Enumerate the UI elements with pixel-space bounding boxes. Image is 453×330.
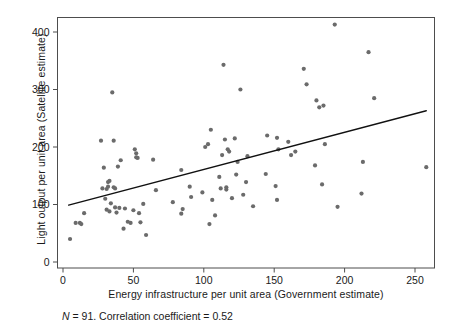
data-point (110, 90, 114, 94)
data-point (366, 50, 370, 54)
data-point (227, 150, 231, 154)
data-point (151, 158, 155, 162)
data-point (224, 187, 228, 191)
data-point (238, 87, 242, 91)
x-tick-label-150: 150 (265, 274, 283, 286)
data-point (234, 173, 238, 177)
data-point (233, 136, 237, 140)
data-point (109, 201, 113, 205)
data-point (223, 137, 227, 141)
x-axis-ticks: 050100150200250 (60, 268, 424, 286)
data-point (333, 22, 337, 26)
data-point (320, 182, 324, 186)
data-point (136, 156, 140, 160)
data-point (107, 209, 111, 213)
data-point (74, 221, 78, 225)
x-tick-label-250: 250 (406, 274, 424, 286)
data-point (265, 133, 269, 137)
scatter-plot-figure: 0100200300400 050100150200250 Light outp… (0, 0, 453, 330)
plot-frame (58, 18, 435, 269)
data-point (179, 212, 183, 216)
data-point (251, 204, 255, 208)
data-point (119, 158, 123, 162)
data-point (103, 197, 107, 201)
data-point (317, 105, 321, 109)
data-point (314, 98, 318, 102)
data-point (213, 213, 217, 217)
x-tick-label-200: 200 (336, 274, 354, 286)
data-point (100, 186, 104, 190)
x-tick-label-0: 0 (60, 274, 66, 286)
data-point (99, 139, 103, 143)
data-point (107, 179, 111, 183)
data-point (372, 96, 376, 100)
y-axis-label: Light output per unit area (Satellite es… (35, 14, 47, 264)
data-point (302, 67, 306, 71)
data-points-layer (68, 22, 428, 241)
data-point (424, 165, 428, 169)
data-point (179, 168, 183, 172)
data-point (335, 205, 339, 209)
data-point (264, 172, 268, 176)
data-point (131, 208, 135, 212)
data-point (209, 128, 213, 132)
data-point (321, 104, 325, 108)
data-point (217, 175, 221, 179)
data-point (141, 202, 145, 206)
data-point (113, 186, 117, 190)
data-point (304, 82, 308, 86)
data-point (275, 136, 279, 140)
data-point (123, 206, 127, 210)
data-point (313, 163, 317, 167)
data-point (323, 142, 327, 146)
x-tick-label-50: 50 (128, 274, 140, 286)
data-point (293, 150, 297, 154)
data-point (206, 142, 210, 146)
data-point (188, 185, 192, 189)
data-point (114, 210, 118, 214)
data-point (221, 63, 225, 67)
data-point (138, 220, 142, 224)
data-point (286, 140, 290, 144)
data-point (102, 166, 106, 170)
data-point (189, 195, 193, 199)
plot-canvas: 0100200300400 050100150200250 (0, 0, 453, 330)
data-point (106, 185, 110, 189)
data-point (171, 200, 175, 204)
data-point (134, 151, 138, 155)
data-point (359, 191, 363, 195)
data-point (241, 193, 245, 197)
data-point (116, 164, 120, 168)
data-point (200, 190, 204, 194)
trend-line (69, 111, 427, 205)
data-point (121, 227, 125, 231)
data-point (181, 207, 185, 211)
chart-caption: N = 91. Correlation coefficient = 0.52 (62, 310, 233, 322)
data-point (128, 221, 132, 225)
caption-n-symbol: N (62, 310, 70, 322)
data-point (219, 186, 223, 190)
data-point (154, 188, 158, 192)
data-point (274, 184, 278, 188)
data-point (68, 237, 72, 241)
data-point (220, 153, 224, 157)
data-point (82, 211, 86, 215)
data-point (133, 147, 137, 151)
data-point (207, 222, 211, 226)
data-point (112, 139, 116, 143)
data-point (117, 206, 121, 210)
data-point (210, 198, 214, 202)
data-point (113, 205, 117, 209)
caption-text: = 91. Correlation coefficient = 0.52 (70, 310, 233, 322)
data-point (79, 222, 83, 226)
data-point (244, 180, 248, 184)
data-point (230, 196, 234, 200)
data-point (361, 160, 365, 164)
data-point (275, 198, 279, 202)
data-point (137, 211, 141, 215)
x-axis-label: Energy infrastructure per unit area (Gov… (57, 288, 435, 300)
x-tick-label-100: 100 (195, 274, 213, 286)
data-point (289, 153, 293, 157)
data-point (144, 233, 148, 237)
